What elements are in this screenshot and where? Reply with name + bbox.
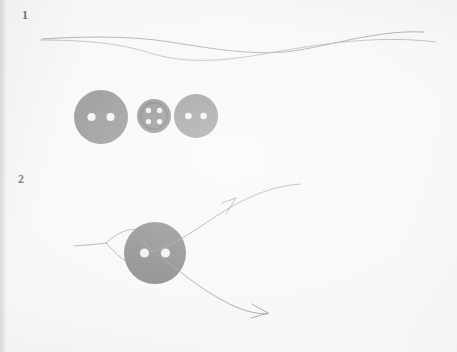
diagram-page: 1 2: [0, 0, 457, 352]
thread-layer-over: [0, 0, 457, 352]
step-number-1: 1: [22, 8, 28, 23]
step2-hole-link-path: [143, 240, 152, 252]
lower-arrowhead-icon: [251, 304, 268, 318]
step2-upper-outgoing-thread-path: [152, 184, 300, 252]
step2-lower-outgoing-thread-path: [160, 256, 268, 314]
step-number-2: 2: [18, 172, 24, 187]
